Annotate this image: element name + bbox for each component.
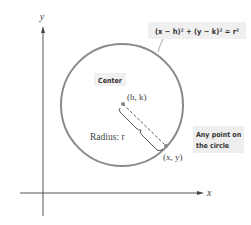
point-on-circle-marker <box>164 144 168 148</box>
center-point-marker <box>121 102 125 106</box>
radius-brace <box>119 108 163 151</box>
point-on-circle-label: (x, y) <box>163 152 183 162</box>
y-axis-arrow-icon <box>41 26 45 33</box>
equation-leader-line <box>158 39 163 52</box>
x-axis-label: x <box>206 187 212 198</box>
point-caption-line1: Any point on <box>196 131 241 139</box>
center-caption: Center <box>98 77 123 85</box>
x-axis-arrow-icon <box>197 191 204 195</box>
point-caption-line2: the circle <box>196 142 229 150</box>
y-axis-label: y <box>39 11 45 22</box>
circle-equation-diagram: y x (x − h)² + (y − k)² = r² Center (h, … <box>0 0 251 225</box>
center-point-label: (h, k) <box>127 92 147 102</box>
radius-label: Radius: r <box>90 132 125 142</box>
diagram-canvas: y x (x − h)² + (y − k)² = r² Center (h, … <box>0 0 251 225</box>
circle-equation: (x − h)² + (y − k)² = r² <box>155 27 239 36</box>
radius-line <box>123 104 166 146</box>
